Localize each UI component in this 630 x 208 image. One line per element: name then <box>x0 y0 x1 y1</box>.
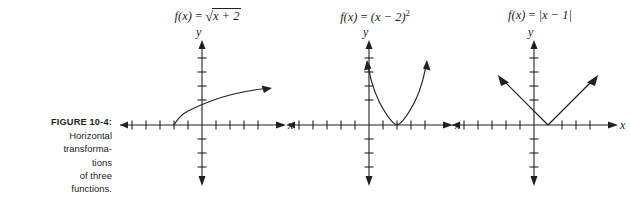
graph-panel-parabola: f(x) = (x − 2)2 <box>285 0 465 208</box>
x-axis-label-2: x <box>619 118 626 132</box>
graph-panel-sqrt: f(x) = √x + 2 <box>118 0 298 208</box>
title-eq-0: = <box>195 9 202 23</box>
x-axis-1 <box>287 121 453 130</box>
plot-absolute: x y <box>450 30 630 190</box>
figure-label: FIGURE 10-4: <box>0 116 112 129</box>
x-axis-0 <box>120 121 286 130</box>
title-base-1: (x − 2) <box>371 10 406 24</box>
curve-absolute <box>498 75 598 125</box>
caption-line-4: functions. <box>0 182 112 195</box>
caption-line-3: of three <box>0 169 112 182</box>
title-arg-2: (x) <box>511 8 525 22</box>
y-axis-1 <box>365 40 374 186</box>
title-radicand-0: x + 2 <box>212 8 241 23</box>
caption-line-0: Horizontal <box>0 129 112 142</box>
title-arg-0: (x) <box>178 9 192 23</box>
plot-parabola: x y <box>285 30 465 190</box>
plot-sqrt: x y <box>118 30 298 190</box>
figure-caption: FIGURE 10-4: Horizontal transforma- tion… <box>0 116 112 195</box>
caption-line-1: transforma- <box>0 142 112 155</box>
y-axis-label-1: y <box>362 30 369 39</box>
y-axis-label-2: y <box>527 30 534 39</box>
curve-parabola <box>364 60 431 125</box>
y-axis-label-0: y <box>195 30 202 39</box>
title-eq-2: = <box>528 8 535 22</box>
graph-panel-absolute: f(x) = |x − 1| <box>450 0 630 208</box>
radical-icon: √ <box>205 9 213 24</box>
caption-line-2: tions <box>0 156 112 169</box>
title-expr-2: |x − 1| <box>539 8 572 22</box>
title-exponent-1: 2 <box>406 8 410 18</box>
x-axis-2 <box>452 121 618 130</box>
panel-title-absolute: f(x) = |x − 1| <box>450 8 630 23</box>
title-eq-1: = <box>361 10 368 24</box>
y-axis-0 <box>198 40 207 186</box>
y-axis-2 <box>530 40 539 186</box>
panel-title-sqrt: f(x) = √x + 2 <box>118 8 298 24</box>
title-arg-1: (x) <box>344 10 358 24</box>
curve-sqrt <box>174 86 272 126</box>
panel-title-parabola: f(x) = (x − 2)2 <box>285 8 465 25</box>
